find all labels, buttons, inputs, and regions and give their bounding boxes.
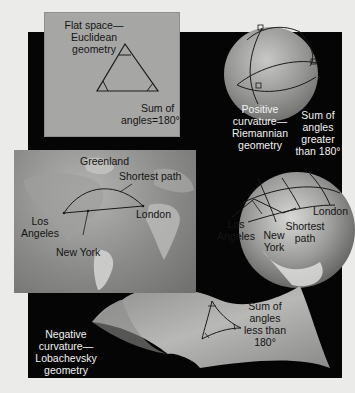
negative-sum-line: 180°: [240, 336, 290, 348]
globe-los-angeles-label: Los Angeles: [216, 218, 256, 242]
positive-curvature-title: Positive curvature— Riemannian geometry: [232, 103, 288, 151]
map-la-line: Angeles: [20, 227, 60, 239]
globe-ny-line: New: [259, 229, 289, 241]
negative-title-line: Lobachevsky: [32, 352, 100, 364]
positive-sum-line: Sum of: [293, 109, 343, 121]
map-shortest-path-label: Shortest path: [119, 170, 181, 182]
positive-sum-line: than 180°: [293, 145, 343, 157]
negative-title-line: geometry: [32, 364, 100, 376]
positive-title-line: curvature—: [232, 115, 288, 127]
negative-sum-line: less than: [240, 324, 290, 336]
positive-title-line: geometry: [232, 139, 288, 151]
globe-la-line: Los: [216, 218, 256, 230]
globe-new-york-label: New York: [259, 229, 289, 253]
negative-sum-line: Sum of: [240, 300, 290, 312]
positive-title-line: Riemannian: [232, 127, 288, 139]
negative-title-line: Negative: [32, 328, 100, 340]
globe-london-label: London: [313, 205, 348, 217]
positive-sum-line: greater: [293, 133, 343, 145]
map-la-line: Los: [20, 215, 60, 227]
negative-angle-sum: Sum of angles less than 180°: [240, 300, 290, 348]
positive-title-line: Positive: [232, 103, 288, 115]
globe-ny-line: York: [259, 241, 289, 253]
positive-angle-sum: Sum of angles greater than 180°: [293, 109, 343, 157]
greenland-label: Greenland: [80, 155, 129, 167]
map-los-angeles-label: Los Angeles: [20, 215, 60, 239]
globe-la-line: Angeles: [216, 230, 256, 242]
map-new-york-label: New York: [56, 246, 100, 258]
positive-sum-line: angles: [293, 121, 343, 133]
map-london-label: London: [136, 208, 171, 220]
world-map-panel: Greenland Shortest path London Los Angel…: [14, 150, 196, 293]
negative-sum-line: angles: [240, 312, 290, 324]
negative-curvature-title: Negative curvature— Lobachevsky geometry: [32, 328, 100, 376]
negative-title-line: curvature—: [32, 340, 100, 352]
